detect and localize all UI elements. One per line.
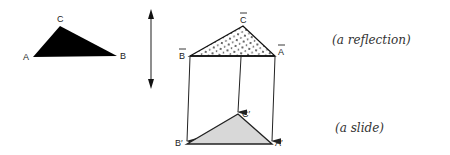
label-a: A <box>23 52 29 62</box>
label-a-prime: A′ <box>275 138 283 148</box>
glide-reflection-diagram: A C B B C A B′ C′ A′ (a reflection) (a s… <box>0 0 450 155</box>
arrow-down-icon <box>148 79 154 89</box>
reflection-axis-arrow <box>148 9 154 89</box>
annotation-reflection: (a reflection) <box>332 33 411 47</box>
label-c: C <box>57 14 64 24</box>
slide-arrow-c <box>238 57 241 112</box>
label-b-bar: B <box>179 51 185 61</box>
triangle-abc-bar <box>190 26 275 56</box>
label-b-prime: B′ <box>175 138 183 148</box>
triangle-abc <box>33 26 117 57</box>
label-a-bar: A <box>278 47 284 57</box>
slide-arrow-a <box>272 57 275 141</box>
triangle-abc-prime <box>187 114 272 144</box>
label-c-bar: C <box>240 15 247 25</box>
slide-arrow-b <box>187 57 190 141</box>
slid-triangle: B′ C′ A′ <box>175 109 283 148</box>
label-c-prime: C′ <box>242 109 250 119</box>
reflected-triangle: B C A <box>179 13 285 61</box>
arrow-up-icon <box>148 9 154 19</box>
label-b: B <box>120 51 126 61</box>
original-triangle: A C B <box>23 14 126 62</box>
annotation-slide: (a slide) <box>335 121 384 135</box>
